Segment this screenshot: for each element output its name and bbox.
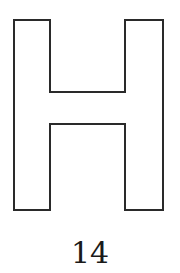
figure-number-label: 14 <box>0 236 180 270</box>
h-shape-figure <box>0 0 180 273</box>
h-shape-outline <box>14 20 163 210</box>
